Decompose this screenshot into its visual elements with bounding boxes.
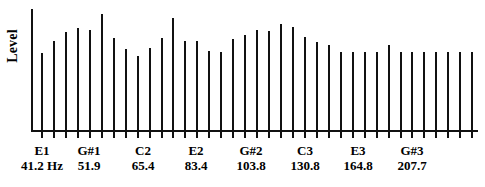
x-axis-tick [364,130,366,138]
bar [101,14,103,130]
x-axis-tick [77,130,79,138]
x-axis-tick [268,130,270,138]
x-axis-tick [435,130,437,138]
x-axis-tick [352,130,354,138]
x-axis-tick [459,130,461,138]
x-axis-tick [471,130,473,138]
x-axis-label-group: G#3207.7 [372,143,452,173]
bar [400,52,402,130]
x-axis-tick [161,130,163,138]
x-axis-tick [304,130,306,138]
bar [172,18,174,130]
x-axis-tick [340,130,342,138]
x-axis-tick [376,130,378,138]
bar [292,27,294,130]
bar [280,24,282,130]
x-axis-tick [244,130,246,138]
bar [364,52,366,130]
bar [161,38,163,130]
bar [65,32,67,130]
bar [256,30,258,130]
x-axis-tick [328,130,330,138]
x-axis-tick [149,130,151,138]
bar-series [0,0,485,132]
bar [208,51,210,130]
x-axis-note-label: G#3 [372,143,452,158]
x-axis-tick [101,130,103,138]
bar [352,52,354,130]
bar [304,37,306,130]
bar [340,52,342,130]
bar [137,56,139,130]
bar [184,41,186,130]
x-axis-tick [256,130,258,138]
bar [447,52,449,130]
x-axis-tick [137,130,139,138]
x-axis-tick [220,130,222,138]
x-axis-tick [125,130,127,138]
x-axis-tick [113,130,115,138]
x-axis-tick [292,130,294,138]
x-axis-tick [65,130,67,138]
x-axis-tick [196,130,198,138]
bar [411,52,413,130]
x-axis-tick [89,130,91,138]
x-axis-tick [280,130,282,138]
x-axis-tick [41,130,43,138]
bar [149,48,151,130]
bar [244,35,246,130]
bar [268,31,270,130]
bar [423,52,425,130]
x-axis-tick [172,130,174,138]
bar [41,53,43,130]
x-axis-tick [423,130,425,138]
spectrum-bar-chart: Level E141.2 HzG#151.9C265.4E283.4G#2103… [0,0,485,187]
bar [328,45,330,130]
bar [459,52,461,130]
x-axis-tick [53,130,55,138]
bar [471,52,473,130]
bar [232,39,234,130]
x-axis-tick [400,130,402,138]
bar [435,52,437,130]
x-axis-frequency-label: 207.7 [372,158,452,173]
x-axis-tick [447,130,449,138]
bar [89,30,91,130]
bar [376,52,378,130]
bar [113,38,115,130]
x-axis-tick [232,130,234,138]
bar [196,41,198,130]
bar [53,41,55,130]
x-axis-tick [208,130,210,138]
bar [220,52,222,130]
x-axis-tick [388,130,390,138]
bar [316,42,318,130]
x-axis-tick [184,130,186,138]
bar [77,28,79,130]
bar [388,45,390,130]
x-axis-tick [316,130,318,138]
bar [125,49,127,130]
x-axis-tick [411,130,413,138]
